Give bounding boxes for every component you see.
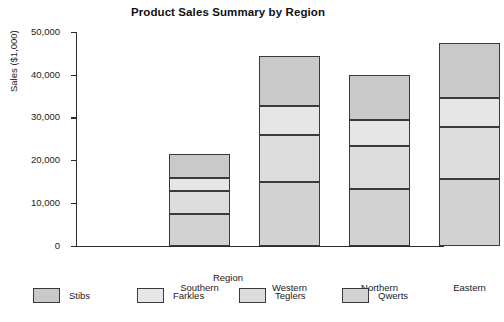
bar-segment-teglers[interactable] <box>259 135 320 183</box>
bar-segment-stibs[interactable] <box>169 154 230 177</box>
bar-segment-teglers[interactable] <box>349 146 410 189</box>
bar-segment-teglers[interactable] <box>169 191 230 214</box>
plot-area: 010,00020,00030,00040,00050,000 Southern… <box>76 32 444 247</box>
bar-segment-stibs[interactable] <box>349 75 410 120</box>
bar-southern[interactable] <box>169 154 230 245</box>
legend-swatch-qwerts <box>342 288 369 303</box>
legend-label-farkles: Farkles <box>173 290 204 301</box>
y-axis-tick <box>71 75 76 76</box>
bar-segment-qwerts[interactable] <box>169 214 230 245</box>
chart-legend: StibsFarklesTeglersQwerts <box>0 288 456 310</box>
bar-eastern[interactable] <box>439 43 500 246</box>
y-axis-tick-label: 0 <box>0 240 60 251</box>
x-axis-label: Region <box>0 272 456 283</box>
y-axis-tick <box>71 32 76 33</box>
y-axis-tick <box>71 117 76 118</box>
bar-segment-farkles[interactable] <box>439 98 500 127</box>
y-axis-tick <box>71 203 76 204</box>
bar-segment-stibs[interactable] <box>439 43 500 99</box>
y-axis-line <box>76 32 77 247</box>
legend-swatch-teglers <box>239 288 266 303</box>
legend-swatch-farkles <box>137 288 164 303</box>
bar-segment-farkles[interactable] <box>259 106 320 135</box>
bar-segment-qwerts[interactable] <box>439 179 500 245</box>
y-axis-tick-label: 20,000 <box>0 154 60 165</box>
x-axis-line <box>76 246 444 247</box>
legend-label-teglers: Teglers <box>275 290 306 301</box>
bar-segment-farkles[interactable] <box>169 178 230 192</box>
bar-segment-farkles[interactable] <box>349 120 410 146</box>
y-axis-tick <box>71 246 76 247</box>
y-axis-tick-label: 10,000 <box>0 197 60 208</box>
legend-item-stibs[interactable]: Stibs <box>33 288 90 303</box>
bar-segment-teglers[interactable] <box>439 127 500 179</box>
legend-item-qwerts[interactable]: Qwerts <box>342 288 408 303</box>
legend-item-farkles[interactable]: Farkles <box>137 288 204 303</box>
legend-label-qwerts: Qwerts <box>378 290 408 301</box>
legend-swatch-stibs <box>33 288 60 303</box>
bar-segment-qwerts[interactable] <box>349 189 410 245</box>
legend-item-teglers[interactable]: Teglers <box>239 288 306 303</box>
legend-label-stibs: Stibs <box>69 290 90 301</box>
y-axis-tick <box>71 160 76 161</box>
chart-title: Product Sales Summary by Region <box>0 6 456 18</box>
bar-northern[interactable] <box>349 75 410 246</box>
y-axis-label: Sales ($1,000) <box>8 30 19 92</box>
bar-segment-qwerts[interactable] <box>259 182 320 245</box>
bar-western[interactable] <box>259 56 320 246</box>
y-axis-tick-label: 30,000 <box>0 111 60 122</box>
bar-segment-stibs[interactable] <box>259 56 320 106</box>
